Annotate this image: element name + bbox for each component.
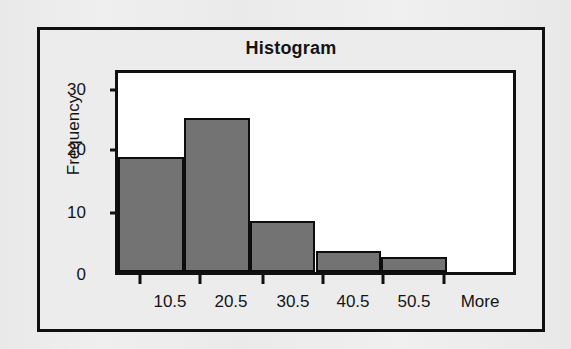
histogram-bar xyxy=(184,118,250,272)
x-tick-label-40-5: 40.5 xyxy=(336,292,369,312)
chart-title: Histogram xyxy=(40,38,542,59)
plot-inner xyxy=(118,73,513,272)
y-tick-label-20: 20 xyxy=(46,140,86,160)
histogram-bar xyxy=(250,221,316,272)
histogram-bar xyxy=(316,251,382,272)
chart-frame: Histogram Frequency 0 10 20 30 10.5 20.5… xyxy=(37,27,545,332)
histogram-bar xyxy=(381,257,447,272)
x-tick-label-20-5: 20.5 xyxy=(214,292,247,312)
histogram-bar xyxy=(118,157,184,272)
x-tick-label-more: More xyxy=(461,292,500,312)
y-tick-label-30: 30 xyxy=(46,80,86,100)
x-tick-label-50-5: 50.5 xyxy=(397,292,430,312)
x-tick-label-10-5: 10.5 xyxy=(153,292,186,312)
y-tick-label-10: 10 xyxy=(46,203,86,223)
y-tick-label-0: 0 xyxy=(46,265,86,285)
plot-area xyxy=(115,70,516,275)
x-tick-label-30-5: 30.5 xyxy=(276,292,309,312)
